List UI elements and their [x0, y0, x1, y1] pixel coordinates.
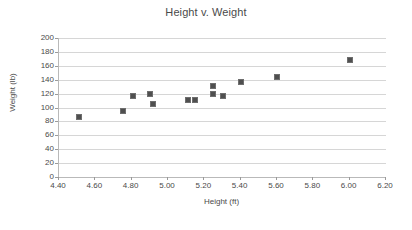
- y-axis-tick-label: 200: [28, 34, 54, 42]
- y-axis-title: Weight (lb): [8, 57, 17, 129]
- gridline: [59, 163, 386, 164]
- data-point-marker: [238, 79, 244, 85]
- gridline: [59, 149, 386, 150]
- y-axis-tick-label: 60: [28, 131, 54, 139]
- y-axis-tick-label: 0: [28, 173, 54, 181]
- x-axis-tick-label: 5.00: [150, 181, 184, 190]
- x-axis-tick-label: 5.80: [295, 181, 329, 190]
- data-point-marker: [150, 101, 156, 107]
- gridline: [59, 38, 386, 39]
- x-axis-tick-mark: [203, 177, 204, 180]
- x-axis-tick-mark: [276, 177, 277, 180]
- data-point-marker: [185, 97, 191, 103]
- x-axis-tick-mark: [349, 177, 350, 180]
- x-axis-tick-label: 4.60: [77, 181, 111, 190]
- x-axis-title: Height (ft): [58, 197, 385, 206]
- x-axis-tick-mark: [312, 177, 313, 180]
- y-axis-tick-label: 40: [28, 145, 54, 153]
- x-axis-tick-label: 5.20: [186, 181, 220, 190]
- data-point-marker: [192, 97, 198, 103]
- x-axis-tick-label: 6.20: [368, 181, 402, 190]
- y-axis-tick-label: 120: [28, 90, 54, 98]
- gridline: [59, 66, 386, 67]
- y-axis-tick-label: 140: [28, 76, 54, 84]
- scatter-chart: Height v. Weight Weight (lb) 02040608010…: [0, 0, 412, 230]
- x-axis-tick-mark: [58, 177, 59, 180]
- x-axis-tick-mark: [167, 177, 168, 180]
- data-point-marker: [274, 74, 280, 80]
- data-point-marker: [347, 57, 353, 63]
- gridline: [59, 80, 386, 81]
- x-axis-tick-label: 5.60: [259, 181, 293, 190]
- x-axis-tick-label: 4.80: [114, 181, 148, 190]
- y-axis-tick-label: 180: [28, 48, 54, 56]
- data-point-marker: [220, 93, 226, 99]
- x-axis-tick-mark: [94, 177, 95, 180]
- y-axis-tick-label: 80: [28, 117, 54, 125]
- chart-title: Height v. Weight: [0, 6, 412, 18]
- gridline: [59, 52, 386, 53]
- y-axis-tick-label: 160: [28, 62, 54, 70]
- data-point-marker: [76, 114, 82, 120]
- gridline: [59, 135, 386, 136]
- y-axis-tick-label: 20: [28, 159, 54, 167]
- x-axis-tick-mark: [385, 177, 386, 180]
- x-axis-tick-label: 5.40: [223, 181, 257, 190]
- x-axis-tick-label: 4.40: [41, 181, 75, 190]
- gridline: [59, 108, 386, 109]
- y-axis-tick-labels: 020406080100120140160180200: [22, 0, 54, 230]
- x-axis-tick-mark: [240, 177, 241, 180]
- data-point-marker: [130, 93, 136, 99]
- data-point-marker: [147, 91, 153, 97]
- x-axis-tick-label: 6.00: [332, 181, 366, 190]
- data-point-marker: [210, 91, 216, 97]
- data-point-marker: [210, 83, 216, 89]
- data-point-marker: [120, 108, 126, 114]
- y-axis-tick-label: 100: [28, 104, 54, 112]
- plot-area: [58, 38, 386, 178]
- x-axis-tick-mark: [131, 177, 132, 180]
- gridline: [59, 121, 386, 122]
